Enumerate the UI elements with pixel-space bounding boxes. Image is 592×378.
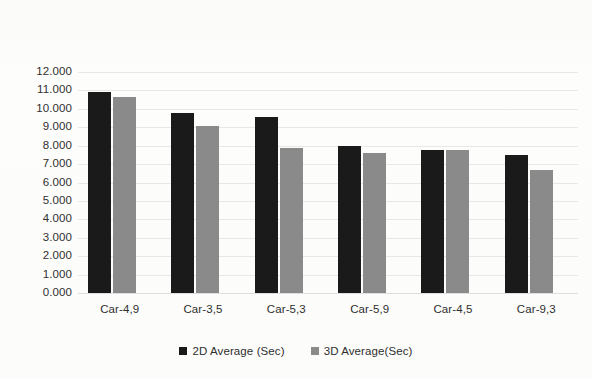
y-axis-tick-label: 8.000 (43, 140, 72, 152)
y-axis-tick-label: 7.000 (43, 158, 72, 170)
legend-swatch-icon-3d (311, 347, 319, 355)
x-axis-category-label: Car-4,9 (78, 302, 161, 316)
chart-legend: 2D Average (Sec) 3D Average(Sec) (0, 345, 592, 357)
y-axis-tick-label: 2.000 (43, 250, 72, 262)
legend-item-3d-average[interactable]: 3D Average(Sec) (311, 345, 413, 357)
bar[interactable] (505, 155, 528, 293)
bar-group (78, 72, 161, 293)
y-axis-labels: 0.0001.0002.0003.0004.0005.0006.0007.000… (0, 0, 72, 378)
bar-chart: 0.0001.0002.0003.0004.0005.0006.0007.000… (0, 0, 592, 378)
y-axis-tick-label: 10.000 (36, 103, 72, 115)
bar[interactable] (446, 150, 469, 293)
y-axis-tick-label: 11.000 (37, 85, 72, 97)
bar[interactable] (113, 97, 136, 293)
y-axis-tick-label: 4.000 (43, 214, 72, 226)
bar-group (161, 72, 244, 293)
y-axis-tick-label: 3.000 (43, 232, 72, 244)
plot-area (78, 72, 578, 293)
y-axis-tick-label: 12.000 (36, 66, 72, 78)
bar[interactable] (255, 117, 278, 293)
x-axis-category-label: Car-5,9 (328, 302, 411, 316)
legend-label-3d: 3D Average(Sec) (324, 345, 413, 357)
bar[interactable] (88, 92, 111, 293)
legend-swatch-icon-2d (179, 347, 187, 355)
bar[interactable] (196, 126, 219, 293)
bar-group (245, 72, 328, 293)
y-axis-tick-label: 6.000 (43, 177, 72, 189)
gridline (78, 293, 578, 294)
bar-group (495, 72, 578, 293)
y-axis-tick-label: 1.000 (43, 269, 72, 281)
x-axis-category-label: Car-4,5 (411, 302, 494, 316)
x-axis-category-labels: Car-4,9Car-3,5Car-5,3Car-5,9Car-4,5Car-9… (78, 302, 578, 324)
y-axis-tick-label: 5.000 (43, 195, 72, 207)
bar[interactable] (338, 146, 361, 293)
y-axis-tick-label: 9.000 (43, 122, 72, 134)
x-axis-category-label: Car-5,3 (245, 302, 328, 316)
bar[interactable] (171, 113, 194, 293)
bar[interactable] (530, 170, 553, 293)
bar-group (411, 72, 494, 293)
x-axis-category-label: Car-9,3 (495, 302, 578, 316)
bar[interactable] (280, 148, 303, 293)
x-axis-category-label: Car-3,5 (161, 302, 244, 316)
y-axis-tick-label: 0.000 (43, 287, 72, 299)
bar-group (328, 72, 411, 293)
bar[interactable] (363, 153, 386, 293)
legend-label-2d: 2D Average (Sec) (192, 345, 284, 357)
bar[interactable] (421, 150, 444, 293)
legend-item-2d-average[interactable]: 2D Average (Sec) (179, 345, 284, 357)
